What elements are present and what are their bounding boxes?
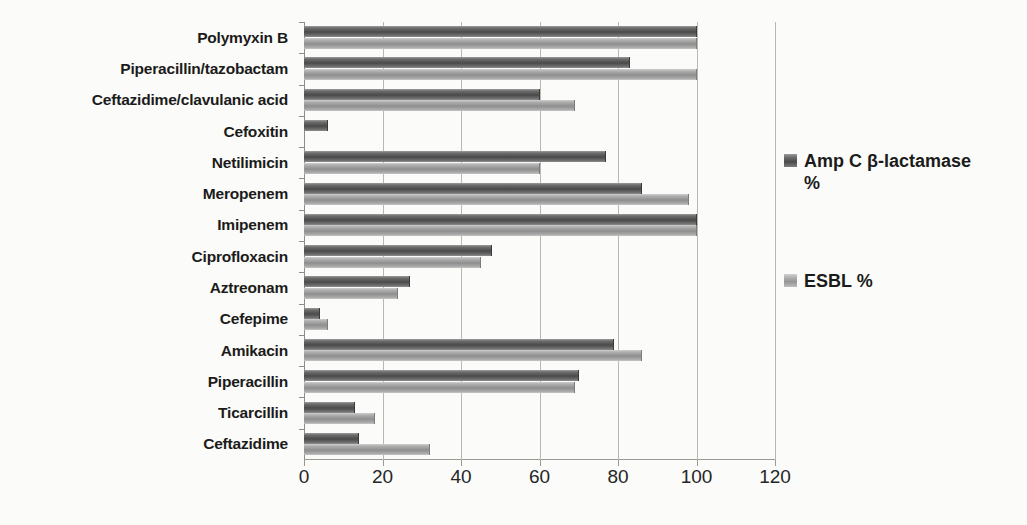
legend-entry[interactable]: ESBL %: [784, 270, 873, 292]
x-tick-label: 40: [450, 466, 471, 488]
bar: [304, 225, 697, 236]
category-label: Meropenem: [0, 185, 288, 203]
bar-group: [304, 272, 775, 303]
gridline: [775, 22, 776, 460]
category-axis: CeftazidimeTicarcillinPiperacillinAmikac…: [0, 22, 296, 460]
bar: [304, 257, 481, 268]
category-label: Imipenem: [0, 216, 288, 234]
category-label: Polymyxin B: [0, 29, 288, 47]
x-tick-label: 0: [299, 466, 310, 488]
x-tick-labels: 020406080100120: [304, 466, 775, 506]
category-label: Cefoxitin: [0, 123, 288, 141]
bar: [304, 276, 410, 287]
category-label: Ticarcillin: [0, 404, 288, 422]
bar-group: [304, 178, 775, 209]
bar: [304, 183, 642, 194]
bar-group: [304, 335, 775, 366]
esbl-swatch-icon: [784, 274, 797, 287]
x-tick-label: 80: [607, 466, 628, 488]
bar: [304, 308, 320, 319]
bar: [304, 214, 697, 225]
bar-group: [304, 241, 775, 272]
bar: [304, 319, 328, 330]
bar-group: [304, 85, 775, 116]
legend-label: ESBL %: [804, 270, 873, 292]
bar: [304, 433, 359, 444]
bar: [304, 382, 575, 393]
bar: [304, 350, 642, 361]
bar: [304, 402, 355, 413]
bar: [304, 245, 492, 256]
bar: [304, 69, 697, 80]
bar: [304, 339, 614, 350]
bar-group: [304, 53, 775, 84]
bar-group: [304, 429, 775, 460]
category-label: Ceftazidime/clavulanic acid: [0, 91, 288, 109]
category-label: Ceftazidime: [0, 435, 288, 453]
legend-label: Amp C β-lactamase %: [804, 150, 971, 194]
bar: [304, 151, 606, 162]
bar: [304, 38, 697, 49]
category-label: Netilimicin: [0, 154, 288, 172]
amp-c-swatch-icon: [784, 154, 797, 167]
bar: [304, 163, 540, 174]
bar-group: [304, 22, 775, 53]
bar: [304, 370, 579, 381]
plot-area: [304, 22, 775, 460]
legend-entry[interactable]: Amp C β-lactamase %: [784, 150, 971, 194]
bar-group: [304, 210, 775, 241]
category-label: Ciprofloxacin: [0, 248, 288, 266]
category-label: Piperacillin: [0, 373, 288, 391]
bar-chart: CeftazidimeTicarcillinPiperacillinAmikac…: [0, 0, 1027, 525]
category-label: Aztreonam: [0, 279, 288, 297]
bar: [304, 57, 630, 68]
bar: [304, 120, 328, 131]
bar: [304, 194, 689, 205]
bar-group: [304, 304, 775, 335]
category-label: Cefepime: [0, 310, 288, 328]
category-label: Amikacin: [0, 342, 288, 360]
x-tick-label: 60: [529, 466, 550, 488]
x-tick-label: 100: [681, 466, 713, 488]
bar: [304, 444, 430, 455]
x-tick-label: 20: [372, 466, 393, 488]
bar: [304, 26, 697, 37]
bar: [304, 89, 540, 100]
category-label: Piperacillin/tazobactam: [0, 60, 288, 78]
bar-group: [304, 397, 775, 428]
bar: [304, 100, 575, 111]
bar: [304, 288, 398, 299]
bar-group: [304, 366, 775, 397]
bar: [304, 413, 375, 424]
bar-group: [304, 116, 775, 147]
x-tick-label: 120: [759, 466, 791, 488]
bar-group: [304, 147, 775, 178]
